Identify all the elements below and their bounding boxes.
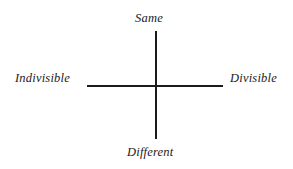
diagram-canvas: Same Different Indivisible Divisible [0,0,293,169]
axis-label-right-divisible: Divisible [230,72,277,85]
axis-label-left-indivisible: Indivisible [15,72,70,85]
horizontal-axis-line [87,85,223,87]
axis-label-top-same: Same [0,12,293,25]
axis-label-bottom-different: Different [0,146,293,159]
